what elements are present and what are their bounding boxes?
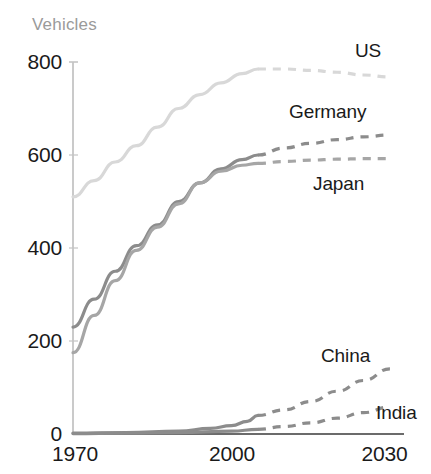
series-china-dashed-projection [258, 369, 390, 416]
series-germany-solid-line [73, 155, 258, 327]
series-us-dashed-projection [258, 69, 390, 77]
vehicles-per-1000-line-chart: Vehicles 800 600 400 200 0 1970 2000 203… [0, 0, 431, 474]
plot-area [0, 0, 431, 474]
series-japan-solid-line [73, 163, 258, 352]
series-label-china: China [321, 345, 370, 367]
series-india [73, 407, 390, 434]
series-label-us: US [355, 40, 381, 62]
series-label-india: India [376, 402, 417, 424]
series-germany [73, 135, 390, 327]
series-layer [73, 69, 390, 434]
series-us-solid-line [73, 69, 258, 197]
series-germany-dashed-projection [258, 135, 390, 155]
series-china [73, 369, 390, 433]
series-label-germany: Germany [289, 101, 366, 123]
series-label-japan: Japan [313, 173, 364, 195]
series-japan-dashed-projection [258, 159, 390, 164]
